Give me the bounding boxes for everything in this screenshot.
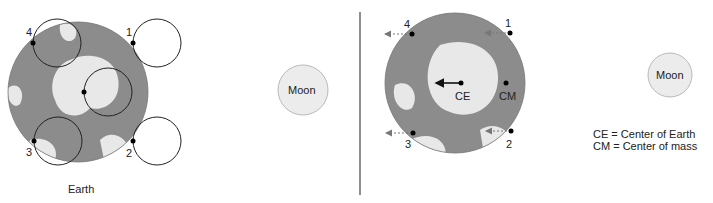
point-label-3-right: 3 — [405, 138, 411, 150]
point-label-4: 4 — [26, 26, 32, 38]
orbit-circle-1 — [133, 19, 181, 67]
earth-left — [8, 22, 148, 165]
point-label-4-right: 4 — [404, 18, 410, 30]
point-label-1: 1 — [126, 26, 132, 38]
legend-ce: CE = Center of Earth — [593, 128, 697, 140]
earth-label: Earth — [68, 183, 94, 195]
orbit-circle-2 — [133, 117, 181, 165]
diagram-canvas — [0, 0, 713, 203]
point-label-2: 2 — [126, 147, 132, 159]
moon-label-left: Moon — [288, 84, 316, 96]
moon-label-right: Moon — [656, 69, 684, 81]
cm-label: CM — [499, 90, 516, 102]
point-label-2-right: 2 — [506, 138, 512, 150]
ce-label: CE — [455, 90, 470, 102]
point-label-3: 3 — [26, 146, 32, 158]
legend-cm: CM = Center of mass — [593, 140, 697, 152]
point-label-1-right: 1 — [505, 17, 511, 29]
legend: CE = Center of Earth CM = Center of mass — [593, 128, 697, 152]
